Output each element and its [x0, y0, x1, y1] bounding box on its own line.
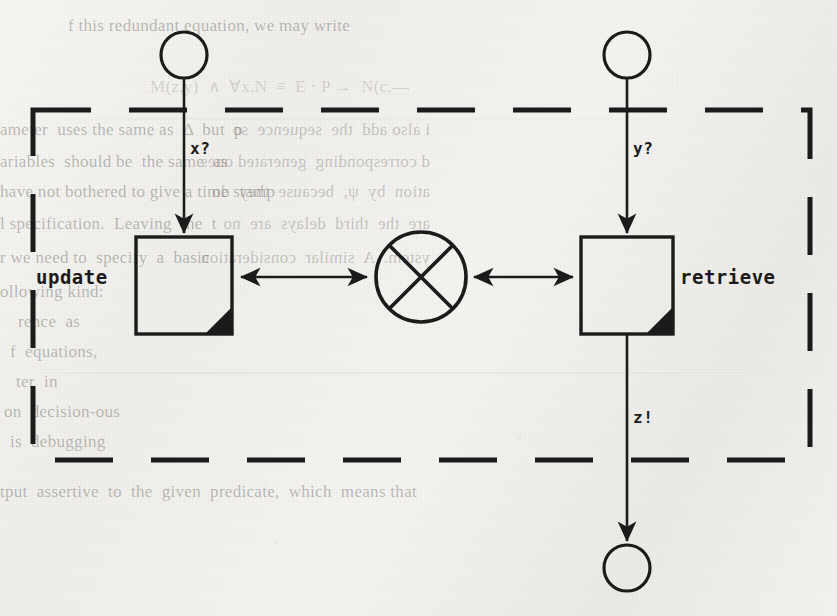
input-terminator-y — [604, 32, 650, 78]
diagram-svg — [0, 0, 837, 616]
output-terminator-z — [604, 545, 650, 591]
input-terminator-x — [161, 32, 207, 78]
edge-label-x: x? — [190, 139, 210, 158]
update-process-box — [136, 237, 232, 334]
retrieve-process-box — [581, 237, 673, 334]
scanned-diagram-page: f this redundant equation, we may writeM… — [0, 0, 837, 616]
update-label: update — [36, 266, 108, 288]
edge-label-z: z! — [633, 408, 653, 427]
retrieve-label: retrieve — [680, 266, 776, 288]
crossed-circle-junction — [376, 232, 466, 322]
diagram-layer — [0, 0, 837, 616]
edge-label-y: y? — [633, 139, 653, 158]
retrieve-box-corner-marker — [646, 307, 673, 334]
update-box-corner-marker — [205, 307, 232, 334]
